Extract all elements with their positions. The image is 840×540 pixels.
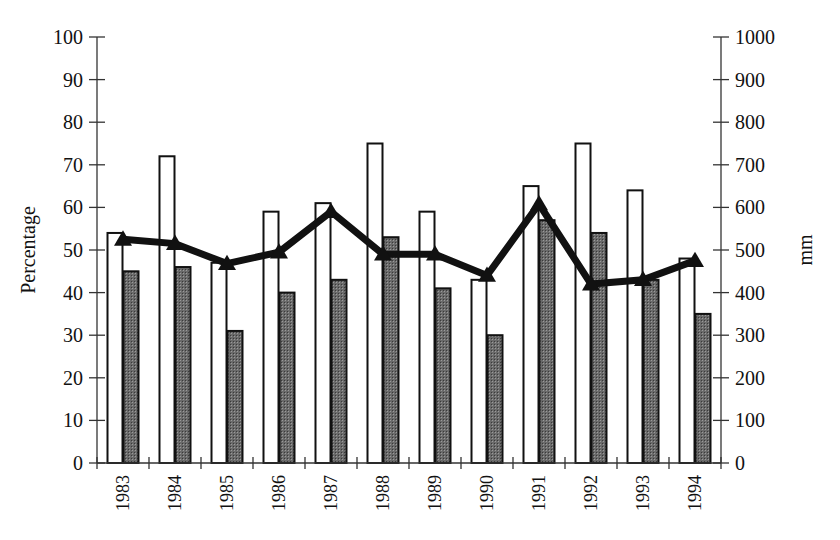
y-tick-label-left: 100 [53,26,83,48]
x-tick-label: 1988 [373,475,393,511]
line-series [123,204,695,284]
open-bar [472,280,487,463]
x-tick-label: 1990 [477,475,497,511]
x-tick-label: 1994 [685,475,705,511]
shaded-bar [696,314,711,463]
y-tick-label-right: 0 [735,452,745,474]
shaded-bar [176,267,191,463]
x-tick-label: 1983 [113,475,133,511]
shaded-bar [332,280,347,463]
shaded-bar [488,335,503,463]
y-tick-label-right: 900 [735,69,765,91]
y-tick-label-right: 400 [735,282,765,304]
y-tick-label-left: 70 [63,154,83,176]
y-tick-label-right: 700 [735,154,765,176]
y-tick-label-left: 60 [63,196,83,218]
open-bar [108,233,123,463]
y-axis-label-right: mm [794,234,816,266]
y-tick-label-right: 300 [735,324,765,346]
y-tick-label-right: 600 [735,196,765,218]
x-tick-label: 1986 [269,475,289,511]
y-tick-label-right: 800 [735,111,765,133]
line-series-group [114,195,704,290]
shaded-bar [592,233,607,463]
open-bar [160,156,175,463]
y-tick-label-left: 30 [63,324,83,346]
open-bar [368,144,383,464]
shaded-bar [540,220,555,463]
y-tick-label-left: 80 [63,111,83,133]
bar-series-group [108,144,711,464]
combo-chart: 0102030405060708090100010020030040050060… [0,0,840,540]
x-tick-label: 1993 [633,475,653,511]
y-tick-label-right: 100 [735,409,765,431]
open-bar [420,212,435,463]
y-tick-label-left: 0 [73,452,83,474]
open-bar [628,190,643,463]
x-tick-label: 1989 [425,475,445,511]
shaded-bar [280,293,295,463]
y-tick-label-right: 500 [735,239,765,261]
y-tick-label-right: 200 [735,367,765,389]
x-tick-label: 1992 [581,475,601,511]
x-tick-label: 1991 [529,475,549,511]
open-bar [212,263,227,463]
y-tick-label-left: 20 [63,367,83,389]
y-tick-label-left: 10 [63,409,83,431]
open-bar [316,203,331,463]
y-axis-label-left: Percentage [17,206,40,294]
shaded-bar [228,331,243,463]
x-tick-label: 1987 [321,475,341,511]
y-tick-label-left: 90 [63,69,83,91]
chart-canvas: 0102030405060708090100010020030040050060… [0,0,840,540]
shaded-bar [644,280,659,463]
open-bar [576,144,591,464]
x-tick-label: 1985 [217,475,237,511]
open-bar [680,259,695,463]
y-tick-label-left: 40 [63,282,83,304]
y-tick-label-right: 1000 [735,26,775,48]
shaded-bar [384,237,399,463]
shaded-bar [124,271,139,463]
x-tick-label: 1984 [165,475,185,511]
y-tick-label-left: 50 [63,239,83,261]
shaded-bar [436,288,451,463]
